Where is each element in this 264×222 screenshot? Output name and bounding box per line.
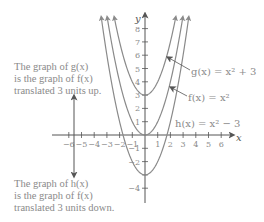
x-tick-label: 3 bbox=[181, 140, 186, 149]
function-labels: g(x) = x² + 3f(x) = x²h(x) = x² − 3 bbox=[175, 66, 256, 129]
x-tick-label: −3 bbox=[101, 140, 113, 149]
label-h: h(x) = x² − 3 bbox=[175, 118, 240, 129]
note-down-line-1: The graph of h(x) bbox=[14, 178, 114, 190]
x-tick-label: 5 bbox=[206, 140, 211, 149]
pointer-g bbox=[169, 58, 190, 70]
pointer-f bbox=[172, 88, 187, 96]
y-tick-label: 1 bbox=[135, 118, 140, 127]
note-translated-up: The graph of g(x) is the graph of f(x) t… bbox=[14, 61, 102, 97]
x-tick-label: 1 bbox=[155, 140, 160, 149]
note-up-line-2: is the graph of f(x) bbox=[14, 73, 102, 85]
y-tick-label: 5 bbox=[135, 65, 140, 74]
x-tick-label: 4 bbox=[193, 140, 198, 149]
y-tick-label: 2 bbox=[135, 104, 140, 113]
x-tick-label: 6 bbox=[219, 140, 224, 149]
note-down-line-2: is the graph of f(x) bbox=[14, 190, 114, 202]
x-tick-label: −4 bbox=[88, 140, 100, 149]
label-f: f(x) = x² bbox=[188, 92, 230, 103]
note-down-line-3: translated 3 units down. bbox=[14, 202, 114, 214]
x-tick-label: −6 bbox=[63, 140, 75, 149]
x-tick-label: 2 bbox=[168, 140, 173, 149]
x-tick-label: −2 bbox=[114, 140, 126, 149]
y-tick-label: −4 bbox=[128, 184, 140, 193]
note-up-line-3: translated 3 units up. bbox=[14, 85, 102, 97]
y-axis-label: y bbox=[134, 13, 141, 24]
note-translated-down: The graph of h(x) is the graph of f(x) t… bbox=[14, 178, 114, 214]
x-axis-label: x bbox=[236, 132, 242, 143]
y-tick-label: −1 bbox=[128, 144, 140, 153]
note-up-line-1: The graph of g(x) bbox=[14, 61, 102, 73]
y-tick-label: 7 bbox=[135, 38, 140, 47]
label-g: g(x) = x² + 3 bbox=[191, 66, 256, 77]
y-tick-label: 8 bbox=[135, 25, 140, 34]
y-tick-label: 6 bbox=[135, 51, 140, 60]
y-tick-label: 4 bbox=[135, 78, 140, 87]
x-tick-label: −5 bbox=[76, 140, 88, 149]
